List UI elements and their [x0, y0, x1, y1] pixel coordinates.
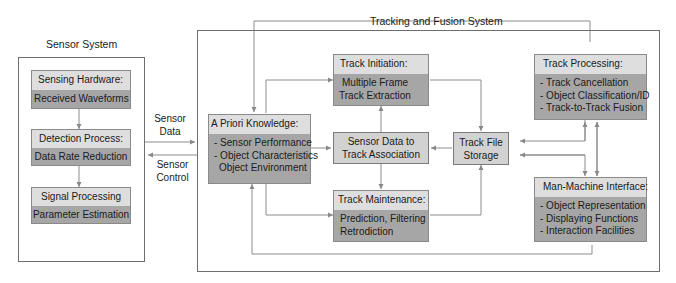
body-line: Multiple Frame [339, 77, 428, 90]
body-line: Track File [454, 136, 508, 149]
body-line: Track Association [334, 148, 428, 161]
block-body: Received Waveforms [32, 90, 130, 108]
block-body: Data Rate Reduction [32, 148, 130, 165]
sensor-system-title: Sensor System [46, 38, 117, 50]
label-line: Data [150, 125, 190, 138]
body-line: Retrodiction [340, 226, 428, 239]
block-header: Sensing Hardware: [32, 71, 130, 90]
block-header: Track Maintenance: [334, 191, 428, 210]
body-line: - Object Characteristics [214, 150, 310, 163]
block-body: Parameter Estimation [32, 206, 130, 223]
track-processing-block[interactable]: Track Processing: - Track Cancellation -… [534, 54, 647, 120]
block-header: Track Processing: [535, 55, 646, 74]
track-initiation-block[interactable]: Track Initiation: Multiple Frame Track E… [333, 54, 429, 106]
signal-processing-block[interactable]: Signal Processing Parameter Estimation [31, 187, 131, 224]
sensor-control-label: Sensor Control [150, 158, 195, 184]
block-header: Detection Process: [32, 130, 130, 148]
label-line: Control [150, 171, 195, 184]
body-line: Prediction, Filtering [340, 213, 428, 226]
body-line: - Sensor Performance [214, 137, 310, 150]
block-body: - Object Representation - Displaying Fun… [535, 197, 646, 241]
body-line: - Interaction Facilities [540, 225, 646, 238]
tracking-system-title: Tracking and Fusion System [370, 15, 503, 27]
block-header: Man-Machine Interface: [535, 178, 646, 197]
body-line: Track Extraction [339, 90, 428, 103]
block-body: Prediction, Filtering Retrodiction [334, 210, 428, 241]
body-line: Sensor Data to [334, 135, 428, 148]
label-line: Sensor [150, 158, 195, 171]
body-line: Object Environment [214, 162, 310, 175]
block-body: Multiple Frame Track Extraction [334, 74, 428, 105]
body-line: - Track-to-Track Fusion [540, 102, 646, 115]
block-header: Track Initiation: [334, 55, 428, 74]
label-line: Sensor [150, 112, 190, 125]
detection-process-block[interactable]: Detection Process: Data Rate Reduction [31, 129, 131, 166]
a-priori-knowledge-block[interactable]: A Priori Knowledge: - Sensor Performance… [208, 114, 311, 184]
track-file-storage-block[interactable]: Track File Storage [453, 132, 509, 165]
sensing-hardware-block[interactable]: Sensing Hardware: Received Waveforms [31, 70, 131, 109]
sensor-data-label: Sensor Data [150, 112, 190, 138]
block-header: A Priori Knowledge: [209, 115, 310, 134]
man-machine-interface-block[interactable]: Man-Machine Interface: - Object Represen… [534, 177, 647, 242]
body-line: - Object Classification/ID [540, 90, 646, 103]
block-body: - Sensor Performance - Object Characteri… [209, 134, 310, 183]
track-maintenance-block[interactable]: Track Maintenance: Prediction, Filtering… [333, 190, 429, 242]
body-line: - Displaying Functions [540, 213, 646, 226]
block-header: Signal Processing [32, 188, 130, 206]
body-line: - Track Cancellation [540, 77, 646, 90]
association-block[interactable]: Sensor Data to Track Association [333, 132, 429, 164]
body-line: - Object Representation [540, 200, 646, 213]
body-line: Storage [454, 149, 508, 162]
block-body: - Track Cancellation - Object Classifica… [535, 74, 646, 119]
